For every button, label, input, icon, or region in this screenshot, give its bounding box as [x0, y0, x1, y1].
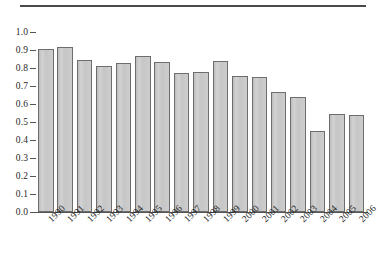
y-axis-tick: 0.1	[0, 188, 36, 200]
y-axis-tick-label: 0.7	[16, 80, 28, 92]
bar	[174, 73, 190, 212]
y-axis-tick-mark	[30, 104, 36, 105]
y-axis-tick-mark	[30, 86, 36, 87]
bar	[232, 76, 248, 212]
y-axis-tick: 0.3	[0, 152, 36, 164]
bar	[290, 97, 306, 212]
y-axis-tick: 0.4	[0, 134, 36, 146]
bar	[252, 77, 268, 212]
y-axis-tick-label: 0.6	[16, 98, 28, 110]
y-axis-tick-label: 0.4	[16, 134, 28, 146]
bar	[116, 63, 132, 212]
y-axis-tick: 0.2	[0, 170, 36, 182]
y-axis-tick-label: 0.3	[16, 152, 28, 164]
y-axis-tick-mark	[30, 176, 36, 177]
y-axis-tick: 0.6	[0, 98, 36, 110]
y-axis-tick-label: 1.0	[16, 26, 28, 38]
y-axis-tick: 0.8	[0, 62, 36, 74]
y-axis-tick-label: 0.5	[16, 116, 28, 128]
y-axis-tick: 1.0	[0, 26, 36, 38]
y-axis-tick-label: 0.9	[16, 44, 28, 56]
bar	[349, 115, 365, 212]
bar	[310, 131, 326, 212]
y-axis-tick-label: 0.1	[16, 188, 28, 200]
bar	[154, 62, 170, 212]
bar	[193, 72, 209, 212]
y-axis-tick-mark	[30, 194, 36, 195]
y-axis-tick-label: 0.0	[16, 206, 28, 218]
bar	[213, 61, 229, 212]
bar	[57, 47, 73, 212]
bar	[329, 114, 345, 212]
y-axis-tick: 0.5	[0, 116, 36, 128]
y-axis-tick: 0.0	[0, 206, 36, 218]
bar	[135, 56, 151, 212]
y-axis-tick: 0.9	[0, 44, 36, 56]
bar	[77, 60, 93, 212]
y-axis-tick-mark	[30, 32, 36, 33]
bar	[96, 66, 112, 212]
y-axis-tick-mark	[30, 158, 36, 159]
y-axis-tick: 0.7	[0, 80, 36, 92]
y-axis-tick-mark	[30, 50, 36, 51]
y-axis-tick-mark	[30, 122, 36, 123]
x-axis-baseline	[35, 212, 368, 213]
y-axis-tick-mark	[30, 68, 36, 69]
bar	[271, 92, 287, 212]
bar	[38, 49, 54, 212]
y-axis-tick-label: 0.8	[16, 62, 28, 74]
y-axis-tick-mark	[30, 140, 36, 141]
y-axis-tick-label: 0.2	[16, 170, 28, 182]
